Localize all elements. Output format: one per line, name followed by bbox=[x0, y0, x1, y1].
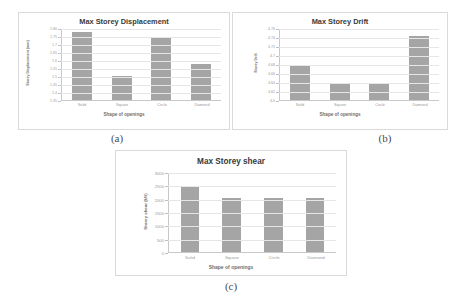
plot-area-shear: 300025002000150010005000 bbox=[168, 173, 336, 253]
x-tick-label-circle: Circle bbox=[142, 103, 182, 107]
gridline bbox=[61, 93, 221, 94]
y-tick-label: 1500 bbox=[155, 211, 164, 216]
y-axis-title-drift: Storey Drift bbox=[254, 37, 258, 89]
subfigure-caption-b: (b) bbox=[368, 132, 402, 144]
y-tick-mark bbox=[165, 226, 168, 227]
y-tick-label: 0 bbox=[162, 251, 164, 256]
gridline bbox=[168, 213, 336, 214]
bar-slot bbox=[102, 29, 142, 100]
bar-solid[interactable] bbox=[181, 187, 199, 252]
y-tick-mark bbox=[58, 37, 61, 38]
x-tick-labels-displacement: SolidSquareCircleDiamond bbox=[62, 103, 222, 107]
gridline bbox=[279, 92, 439, 93]
bar-diamond[interactable] bbox=[306, 198, 324, 252]
bar-diamond[interactable] bbox=[409, 36, 429, 100]
y-tick-label: 4.66 bbox=[268, 72, 275, 76]
x-tick-label-diamond: Diamond bbox=[182, 103, 222, 107]
chart-title-shear: Max Storey shear bbox=[116, 157, 346, 166]
y-tick-mark bbox=[58, 85, 61, 86]
gridline bbox=[279, 83, 439, 84]
y-tick-mark bbox=[276, 29, 279, 30]
y-tick-label: 2500 bbox=[155, 184, 164, 189]
y-tick-label: 500 bbox=[157, 237, 164, 242]
bar-slot bbox=[181, 29, 221, 100]
y-tick-mark bbox=[276, 101, 279, 102]
y-tick-label: 1.45 bbox=[50, 83, 57, 87]
x-tick-label-circle: Circle bbox=[253, 255, 295, 260]
gridline bbox=[61, 45, 221, 46]
y-tick-label: 2000 bbox=[155, 197, 164, 202]
gridline bbox=[279, 74, 439, 75]
y-tick-label: 1.75 bbox=[50, 35, 57, 39]
y-tick-mark bbox=[165, 200, 168, 201]
y-tick-mark bbox=[276, 74, 279, 75]
gridline bbox=[61, 37, 221, 38]
y-tick-mark bbox=[58, 61, 61, 62]
x-tick-label-diamond: Diamond bbox=[295, 255, 337, 260]
y-tick-mark bbox=[58, 77, 61, 78]
gridline bbox=[279, 38, 439, 39]
subfigure-caption-a: (a) bbox=[100, 132, 134, 144]
x-tick-label-diamond: Diamond bbox=[400, 103, 440, 107]
x-axis-line bbox=[279, 100, 439, 101]
y-tick-mark bbox=[165, 253, 168, 254]
y-tick-mark bbox=[58, 29, 61, 30]
bar-slot bbox=[142, 29, 182, 100]
y-tick-mark bbox=[58, 93, 61, 94]
y-tick-label: 1.80 bbox=[50, 27, 57, 31]
gridline bbox=[61, 85, 221, 86]
x-tick-label-circle: Circle bbox=[360, 103, 400, 107]
gridline bbox=[279, 47, 439, 48]
x-tick-label-square: Square bbox=[211, 255, 253, 260]
gridline bbox=[61, 77, 221, 78]
y-tick-label: 1.65 bbox=[50, 51, 57, 55]
y-tick-label: 1000 bbox=[155, 224, 164, 229]
x-axis-line bbox=[61, 100, 221, 101]
chart-panel-displacement: Max Storey Displacement 1.801.751.71.651… bbox=[18, 12, 230, 130]
chart-panel-drift: Max Storey Drift 4.764.744.724.74.684.66… bbox=[232, 12, 448, 130]
bar-square[interactable] bbox=[222, 198, 240, 252]
y-tick-label: 1.35 bbox=[50, 99, 57, 103]
y-tick-label: 4.64 bbox=[268, 81, 275, 85]
y-tick-mark bbox=[276, 38, 279, 39]
y-tick-mark bbox=[58, 69, 61, 70]
y-tick-label: 4.68 bbox=[268, 63, 275, 67]
gridline bbox=[279, 29, 439, 30]
y-tick-label: 1.4 bbox=[52, 91, 57, 95]
y-tick-label: 1.55 bbox=[50, 67, 57, 71]
x-tick-label-square: Square bbox=[102, 103, 142, 107]
y-tick-mark bbox=[58, 101, 61, 102]
x-tick-labels-shear: SolidSquareCircleDiamond bbox=[169, 255, 337, 260]
chart-title-displacement: Max Storey Displacement bbox=[19, 17, 229, 26]
y-tick-label: 3000 bbox=[155, 171, 164, 176]
x-tick-label-solid: Solid bbox=[62, 103, 102, 107]
bar-solid[interactable] bbox=[72, 32, 92, 100]
x-axis-title-displacement: Shape of openings bbox=[19, 112, 229, 117]
y-tick-mark bbox=[165, 173, 168, 174]
bar-square[interactable] bbox=[112, 76, 132, 100]
y-axis-title-shear: Storey shear (kN) bbox=[143, 181, 148, 243]
plot-area-displacement: 1.801.751.71.651.61.551.51.451.41.35 bbox=[61, 29, 221, 101]
y-tick-mark bbox=[276, 83, 279, 84]
y-tick-mark bbox=[165, 240, 168, 241]
gridline bbox=[279, 65, 439, 66]
x-axis-title-drift: Shape of openings bbox=[233, 112, 447, 117]
y-tick-mark bbox=[276, 65, 279, 66]
chart-title-drift: Max Storey Drift bbox=[233, 17, 447, 26]
y-tick-mark bbox=[58, 45, 61, 46]
y-tick-label: 4.62 bbox=[268, 90, 275, 94]
y-tick-mark bbox=[276, 56, 279, 57]
y-tick-label: 4.74 bbox=[268, 36, 275, 40]
y-tick-mark bbox=[165, 186, 168, 187]
y-tick-label: 1.5 bbox=[52, 75, 57, 79]
gridline bbox=[168, 173, 336, 174]
subfigure-caption-c: (c) bbox=[214, 280, 248, 292]
y-tick-mark bbox=[165, 213, 168, 214]
y-tick-mark bbox=[276, 92, 279, 93]
y-tick-mark bbox=[276, 47, 279, 48]
x-tick-label-solid: Solid bbox=[280, 103, 320, 107]
gridline bbox=[279, 56, 439, 57]
bar-circle[interactable] bbox=[264, 198, 282, 252]
y-tick-label: 4.6 bbox=[270, 99, 275, 103]
x-axis-line bbox=[168, 252, 336, 253]
